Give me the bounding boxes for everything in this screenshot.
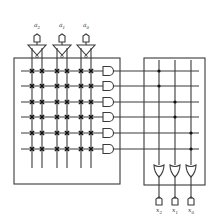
and-gate-icon — [103, 129, 114, 138]
crosspoint-node — [31, 101, 34, 104]
crosspoint-node — [41, 85, 44, 88]
or-connection-dot — [157, 69, 160, 72]
or-gate-icon — [170, 165, 180, 177]
and-gate-icon — [103, 67, 114, 76]
crosspoint-node — [66, 148, 69, 151]
or-connection-dot — [189, 147, 192, 150]
crosspoint-node — [80, 70, 83, 73]
crosspoint-node — [31, 116, 34, 119]
crosspoint-node — [31, 85, 34, 88]
crosspoint-node — [31, 132, 34, 135]
buffer-inverter-icon — [28, 45, 46, 55]
or-connection-dot — [173, 115, 176, 118]
crosspoint-node — [56, 70, 59, 73]
or-connection-dot — [157, 84, 160, 87]
inverter-bubble-icon — [61, 55, 63, 57]
and-gate-icon — [103, 98, 114, 107]
output-label: x1 — [172, 206, 178, 215]
crosspoint-node — [56, 132, 59, 135]
crosspoint-node — [90, 101, 93, 104]
crosspoint-node — [90, 116, 93, 119]
crosspoint-node — [66, 70, 69, 73]
pla-schematic: a2a1a0x2x1x0 — [0, 0, 218, 221]
crosspoint-node — [66, 132, 69, 135]
buffer-inverter-icon — [53, 45, 71, 55]
crosspoint-node — [41, 132, 44, 135]
crosspoint-node — [41, 101, 44, 104]
crosspoint-node — [56, 116, 59, 119]
input-label: a0 — [83, 21, 90, 30]
or-connection-dot — [189, 131, 192, 134]
and-gate-icon — [103, 113, 114, 122]
crosspoint-node — [90, 70, 93, 73]
crosspoint-node — [90, 148, 93, 151]
crosspoint-node — [41, 70, 44, 73]
or-gate-icon — [186, 165, 196, 177]
and-gate-icon — [103, 145, 114, 154]
crosspoint-node — [66, 116, 69, 119]
crosspoint-node — [80, 148, 83, 151]
crosspoint-node — [90, 132, 93, 135]
crosspoint-node — [56, 148, 59, 151]
or-connection-dot — [173, 100, 176, 103]
crosspoint-node — [80, 116, 83, 119]
crosspoint-node — [80, 85, 83, 88]
crosspoint-node — [66, 101, 69, 104]
crosspoint-node — [31, 70, 34, 73]
crosspoint-node — [90, 85, 93, 88]
crosspoint-node — [31, 148, 34, 151]
input-label: a1 — [59, 21, 65, 30]
pla-diagram: a2a1a0x2x1x0 — [0, 0, 218, 221]
input-pad-icon — [59, 34, 65, 42]
crosspoint-node — [66, 85, 69, 88]
input-pad-icon — [83, 34, 89, 42]
crosspoint-node — [41, 116, 44, 119]
crosspoint-node — [80, 132, 83, 135]
inverter-bubble-icon — [85, 55, 87, 57]
input-label: a2 — [34, 21, 41, 30]
input-pad-icon — [34, 34, 40, 42]
output-label: x0 — [188, 206, 194, 215]
buffer-inverter-icon — [77, 45, 95, 55]
and-gate-icon — [103, 82, 114, 91]
crosspoint-node — [41, 148, 44, 151]
or-gate-icon — [154, 165, 164, 177]
output-label: x2 — [156, 206, 162, 215]
crosspoint-node — [56, 85, 59, 88]
inverter-bubble-icon — [36, 55, 38, 57]
crosspoint-node — [80, 101, 83, 104]
crosspoint-node — [56, 101, 59, 104]
